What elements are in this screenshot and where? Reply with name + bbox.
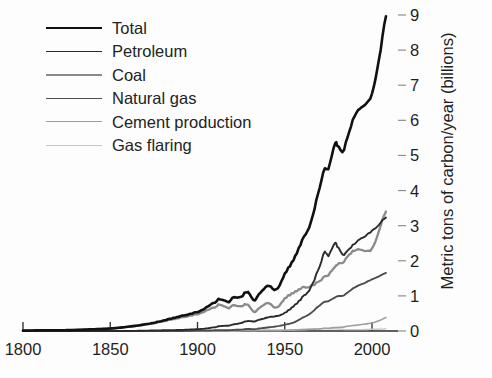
legend-swatch-line-icon xyxy=(46,121,102,122)
legend-swatch-line-icon xyxy=(46,98,102,99)
y-axis-tick-label: 7 xyxy=(410,77,419,94)
legend-item-label: Coal xyxy=(112,67,146,84)
legend-item-total[interactable]: Total xyxy=(46,16,296,40)
y-axis-tick-label: 4 xyxy=(410,182,419,199)
legend-item-label: Petroleum xyxy=(112,43,187,60)
legend-swatch-line-icon xyxy=(46,145,102,146)
series-line-natural-gas xyxy=(23,273,386,331)
y-axis-tick-label: 3 xyxy=(410,217,419,234)
y-axis-ticks xyxy=(398,15,406,331)
series-line-coal xyxy=(23,212,386,331)
legend-item-label: Cement production xyxy=(112,114,251,131)
x-axis-tick-label: 1950 xyxy=(266,341,303,358)
y-axis-tick-label: 1 xyxy=(410,288,419,305)
legend-swatch-line-icon xyxy=(46,27,102,29)
legend-item-coal[interactable]: Coal xyxy=(46,63,296,87)
x-axis-tick-label: 1850 xyxy=(92,341,129,358)
legend-item-petroleum[interactable]: Petroleum xyxy=(46,40,296,64)
legend-item-natural-gas[interactable]: Natural gas xyxy=(46,87,296,111)
y-axis-title-text: Metric tons of carbon/year (billions) xyxy=(438,0,457,326)
legend-item-gas-flaring[interactable]: Gas flaring xyxy=(46,134,296,158)
x-axis-tick-label: 1800 xyxy=(5,341,42,358)
chart-legend: TotalPetroleumCoalNatural gasCement prod… xyxy=(46,16,296,157)
x-axis-tick-label: 2000 xyxy=(354,341,391,358)
legend-item-label: Total xyxy=(112,20,147,37)
legend-item-label: Natural gas xyxy=(112,90,196,107)
chart-figure: TotalPetroleumCoalNatural gasCement prod… xyxy=(0,0,492,378)
y-axis-tick-label: 8 xyxy=(410,42,419,59)
y-axis-tick-label: 0 xyxy=(410,323,419,340)
legend-item-cement-production[interactable]: Cement production xyxy=(46,110,296,134)
x-axis-tick-label: 1900 xyxy=(179,341,216,358)
y-axis-tick-label: 2 xyxy=(410,253,419,270)
y-axis-tick-label: 9 xyxy=(410,7,419,24)
y-axis-tick-label: 5 xyxy=(410,147,419,164)
legend-item-label: Gas flaring xyxy=(112,137,192,154)
legend-swatch-line-icon xyxy=(46,51,102,52)
series-line-petroleum xyxy=(23,217,386,331)
legend-swatch-line-icon xyxy=(46,74,102,76)
y-axis-tick-label: 6 xyxy=(410,112,419,129)
